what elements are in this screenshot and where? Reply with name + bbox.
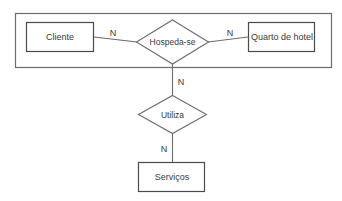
entity-servicos-label: Serviços bbox=[155, 173, 190, 182]
entity-quarto-de-hotel-label: Quarto de hotel bbox=[251, 33, 313, 42]
connector-hospeda-se-quarto bbox=[208, 37, 248, 42]
relationship-utiliza-label: Utiliza bbox=[161, 110, 184, 119]
cardinality-cliente-hospeda-se: N bbox=[110, 29, 117, 38]
entity-cliente-label: Cliente bbox=[46, 33, 74, 42]
cardinality-utiliza-servicos: N bbox=[161, 145, 168, 154]
cardinality-hospeda-se-utiliza: N bbox=[178, 78, 185, 87]
connector-cliente-hospeda-se bbox=[94, 37, 137, 42]
relationship-hospeda-se-label: Hospeda-se bbox=[150, 38, 196, 47]
cardinality-hospeda-se-quarto: N bbox=[227, 29, 234, 38]
